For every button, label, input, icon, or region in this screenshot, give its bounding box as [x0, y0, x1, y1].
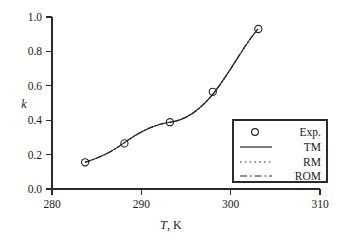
legend: Exp. TM RM ROM — [233, 120, 327, 182]
legend-label-exp: Exp. — [300, 126, 322, 139]
legend-label-tm: TM — [304, 141, 321, 153]
y-tick-label-2: 0.4 — [28, 114, 43, 126]
scatter-plot: 0.0 0.2 0.4 0.6 0.8 1.0 280 290 300 310 … — [0, 0, 339, 239]
x-tick-label-0: 280 — [43, 198, 61, 210]
chart-figure: 0.0 0.2 0.4 0.6 0.8 1.0 280 290 300 310 … — [0, 0, 339, 239]
x-tick-label-2: 300 — [222, 198, 240, 210]
y-tick-label-3: 0.6 — [28, 80, 43, 92]
x-tick-label-3: 310 — [311, 198, 329, 210]
x-tick-label-1: 290 — [133, 198, 151, 210]
y-tick-label-5: 1.0 — [28, 11, 43, 23]
y-tick-label-1: 0.2 — [28, 149, 43, 161]
y-axis-title: k — [21, 97, 27, 111]
y-tick-label-4: 0.8 — [28, 45, 43, 57]
x-axis-title-units: , K — [167, 218, 182, 232]
legend-label-rm: RM — [303, 156, 321, 168]
legend-label-rom: ROM — [295, 170, 321, 182]
y-tick-label-0: 0.0 — [28, 183, 43, 195]
x-axis-title: T , K — [160, 218, 182, 232]
